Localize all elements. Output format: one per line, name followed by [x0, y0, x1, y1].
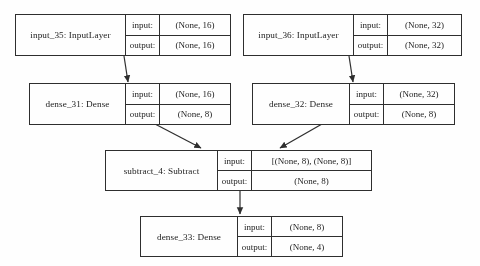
node-input_36[interactable]: input_36: InputLayer input: (None, 32) o…: [243, 14, 462, 56]
node-dense_31-input-shape: (None, 16): [160, 84, 230, 104]
model-graph-canvas: input_35: InputLayer input: (None, 16) o…: [0, 0, 480, 266]
node-dense_32[interactable]: dense_32: Dense input: (None, 32) output…: [252, 83, 455, 125]
node-input_36-output-row: output: (None, 32): [354, 36, 461, 56]
node-dense_33[interactable]: dense_33: Dense input: (None, 8) output:…: [140, 216, 343, 257]
node-subtract_4-input-shape: [(None, 8), (None, 8)]: [252, 151, 371, 170]
node-input_35-name: input_35: InputLayer: [16, 15, 126, 55]
output-label: output:: [354, 36, 388, 56]
node-dense_31-input-row: input: (None, 16): [126, 84, 230, 105]
node-dense_33-input-row: input: (None, 8): [238, 217, 342, 237]
node-dense_32-io: input: (None, 32) output: (None, 8): [350, 84, 454, 124]
output-label: output:: [126, 36, 160, 56]
node-input_36-output-shape: (None, 32): [388, 36, 461, 56]
input-label: input:: [126, 15, 160, 35]
node-dense_33-output-shape: (None, 4): [272, 237, 342, 256]
input-label: input:: [218, 151, 252, 170]
node-input_36-name: input_36: InputLayer: [244, 15, 354, 55]
node-dense_32-output-shape: (None, 8): [384, 105, 454, 125]
node-dense_31[interactable]: dense_31: Dense input: (None, 16) output…: [29, 83, 231, 125]
node-input_35-input-shape: (None, 16): [160, 15, 230, 35]
node-input_36-io: input: (None, 32) output: (None, 32): [354, 15, 461, 55]
node-input_35-input-row: input: (None, 16): [126, 15, 230, 36]
input-label: input:: [350, 84, 384, 104]
node-input_35[interactable]: input_35: InputLayer input: (None, 16) o…: [15, 14, 231, 56]
node-subtract_4-output-shape: (None, 8): [252, 171, 371, 190]
node-dense_32-input-row: input: (None, 32): [350, 84, 454, 105]
output-label: output:: [350, 105, 384, 125]
node-dense_31-output-row: output: (None, 8): [126, 105, 230, 125]
node-subtract_4[interactable]: subtract_4: Subtract input: [(None, 8), …: [105, 150, 372, 191]
node-subtract_4-output-row: output: (None, 8): [218, 171, 371, 190]
node-dense_31-io: input: (None, 16) output: (None, 8): [126, 84, 230, 124]
node-dense_32-output-row: output: (None, 8): [350, 105, 454, 125]
node-dense_33-io: input: (None, 8) output: (None, 4): [238, 217, 342, 256]
node-dense_32-input-shape: (None, 32): [384, 84, 454, 104]
node-dense_33-output-row: output: (None, 4): [238, 237, 342, 256]
node-dense_32-name: dense_32: Dense: [253, 84, 350, 124]
node-subtract_4-name: subtract_4: Subtract: [106, 151, 218, 190]
input-label: input:: [238, 217, 272, 236]
node-subtract_4-input-row: input: [(None, 8), (None, 8)]: [218, 151, 371, 171]
node-dense_33-input-shape: (None, 8): [272, 217, 342, 236]
output-label: output:: [238, 237, 272, 256]
edge-input35-dense31: [124, 56, 128, 82]
edge-dense32-subtract4: [280, 124, 322, 148]
node-input_36-input-shape: (None, 32): [388, 15, 461, 35]
node-dense_31-name: dense_31: Dense: [30, 84, 126, 124]
input-label: input:: [354, 15, 388, 35]
output-label: output:: [218, 171, 252, 190]
node-dense_31-output-shape: (None, 8): [160, 105, 230, 125]
edge-dense31-subtract4: [155, 124, 201, 148]
node-input_35-io: input: (None, 16) output: (None, 16): [126, 15, 230, 55]
node-input_35-output-row: output: (None, 16): [126, 36, 230, 56]
edge-input36-dense32: [349, 56, 353, 82]
output-label: output:: [126, 105, 160, 125]
node-input_36-input-row: input: (None, 32): [354, 15, 461, 36]
input-label: input:: [126, 84, 160, 104]
node-dense_33-name: dense_33: Dense: [141, 217, 238, 256]
node-input_35-output-shape: (None, 16): [160, 36, 230, 56]
node-subtract_4-io: input: [(None, 8), (None, 8)] output: (N…: [218, 151, 371, 190]
